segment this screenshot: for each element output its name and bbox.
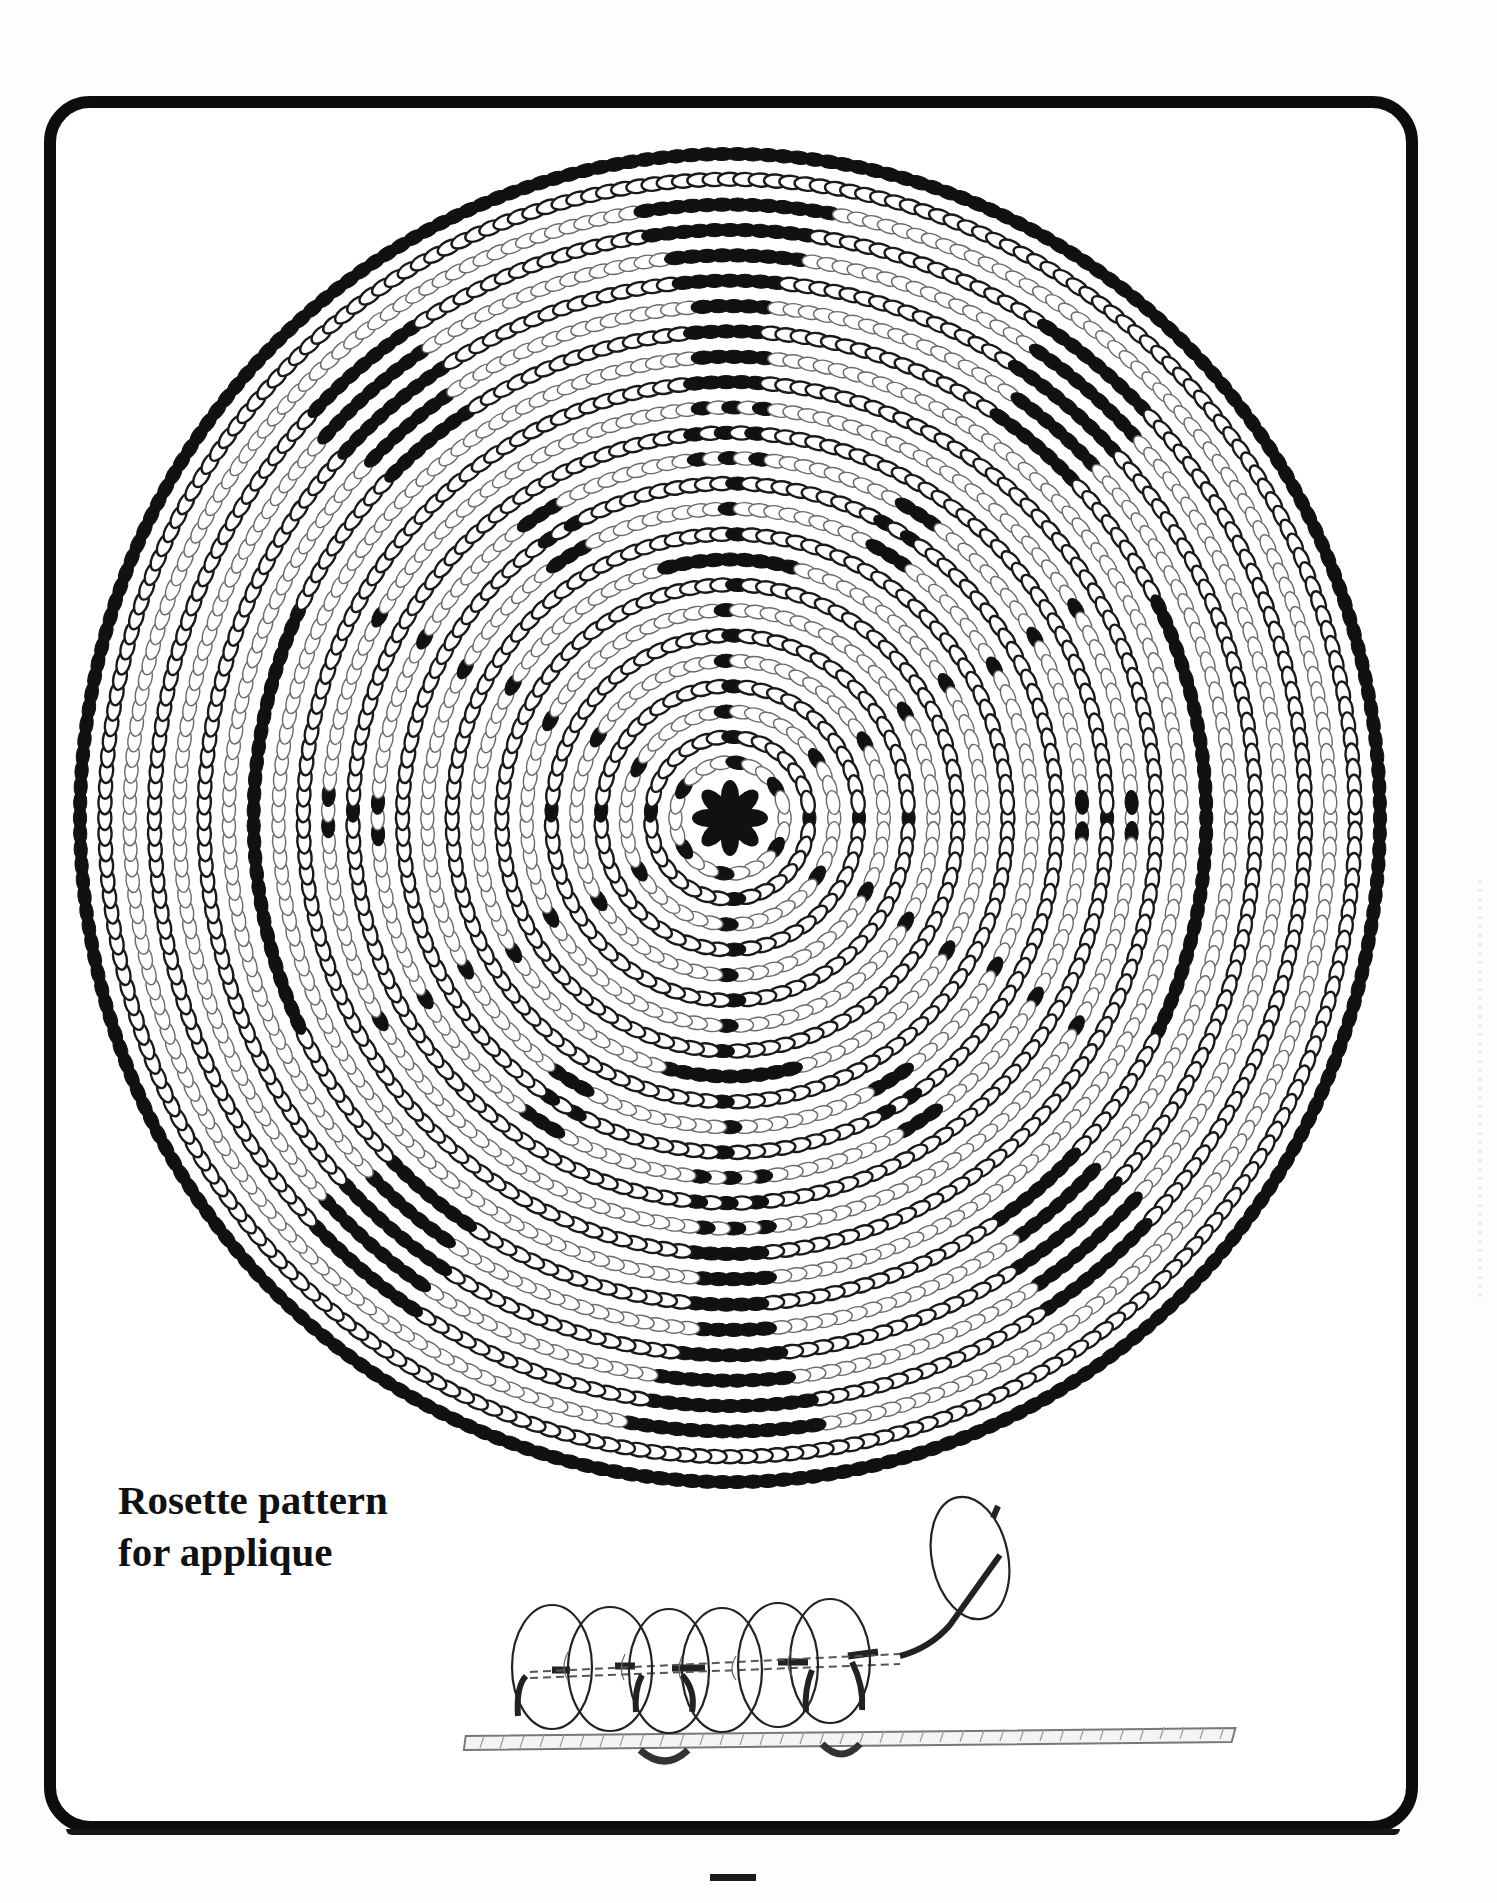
caption: Rosette pattern for applique [118,1474,388,1578]
loose-bead [920,1489,1020,1626]
needle-thread-tip [993,1506,998,1518]
book-page: Rosette pattern for applique [0,0,1497,1903]
scan-artifact [1478,880,1482,1300]
caption-line-2: for applique [118,1526,388,1578]
caption-line-1: Rosette pattern [118,1474,388,1526]
center-flower [692,780,768,856]
rosette-bead-pattern [0,0,1497,1560]
applique-stitch-illustration [460,1480,1240,1800]
leather-strip [464,1727,1236,1761]
stitch-under-1 [640,1750,688,1761]
page-number-mark [710,1874,756,1881]
